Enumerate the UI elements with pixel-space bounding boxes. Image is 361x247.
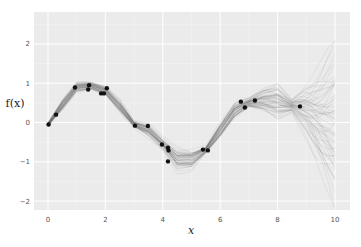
observation-point [253,98,257,102]
y-axis-label: f(x) [6,97,25,110]
observation-point [239,99,243,103]
observation-point [133,123,137,127]
observation-point [166,159,170,163]
observation-point [298,104,302,108]
observation-point [105,86,109,90]
observation-point [160,142,164,146]
x-tick-label: 2 [103,216,107,224]
x-tick-labels: 0246810 [46,216,340,224]
observation-point [206,148,210,152]
y-tick-label: 0 [26,119,30,127]
observation-point [201,147,205,151]
x-tick-label: 10 [331,216,340,224]
x-tick-label: 8 [275,216,279,224]
observation-point [102,91,106,95]
x-tick-label: 6 [218,216,223,224]
observation-point [146,124,150,128]
x-axis-label: x [188,224,195,237]
observation-point [243,105,247,109]
y-tick-label: 1 [26,80,30,88]
observation-point [86,87,90,91]
y-tick-label: 2 [26,40,30,48]
observation-point [87,83,91,87]
observation-point [73,85,77,89]
observation-point [166,148,170,152]
gp-samples-chart: 0246810 −2−1012 x f(x) [0,0,361,247]
observation-point [54,112,58,116]
y-tick-label: −1 [20,158,30,166]
x-tick-label: 0 [46,216,50,224]
observation-point [46,122,50,126]
y-tick-label: −2 [20,198,30,206]
y-tick-labels: −2−1012 [20,40,30,205]
x-tick-label: 4 [161,216,166,224]
